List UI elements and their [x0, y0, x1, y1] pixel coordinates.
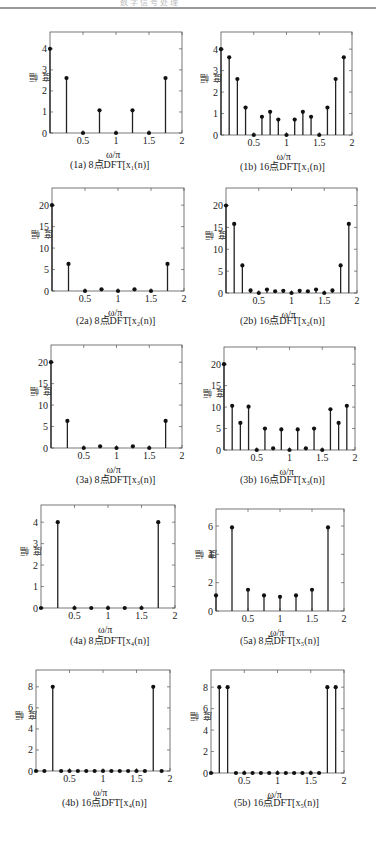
- stem-marker: [242, 771, 246, 775]
- stem-marker: [226, 685, 230, 689]
- y-tick-label: 4: [203, 725, 208, 736]
- stem-marker: [309, 771, 313, 775]
- x-tick-label: 1.5: [305, 775, 318, 786]
- stem-marker: [267, 771, 271, 775]
- x-tick-label: 1: [275, 775, 280, 786]
- stem-marker: [250, 771, 254, 775]
- plot-frame: [211, 670, 344, 773]
- stem-marker: [284, 771, 288, 775]
- figure-caption: (5b) 16点DFT[x₅(n)]: [234, 794, 319, 809]
- stem-marker: [259, 771, 263, 775]
- stem-marker: [292, 771, 296, 775]
- stem-marker: [234, 771, 238, 775]
- y-tick-label: 8: [203, 682, 208, 693]
- y-tick-label: 0: [203, 768, 208, 779]
- x-tick-label: 2: [342, 775, 347, 786]
- stem-marker: [334, 685, 338, 689]
- y-axis-label: 幅度: [187, 712, 213, 721]
- stem-marker: [325, 685, 329, 689]
- stem-marker: [300, 771, 304, 775]
- x-tick-label: 0.5: [238, 775, 251, 786]
- stem-marker: [217, 685, 221, 689]
- stem-marker: [275, 771, 279, 775]
- stem-marker: [209, 771, 213, 775]
- y-tick-label: 2: [203, 746, 208, 757]
- stem-marker: [317, 771, 321, 775]
